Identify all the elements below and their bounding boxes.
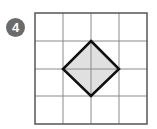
grid-figure bbox=[0, 0, 157, 129]
inner-grid-over-shape bbox=[63, 41, 119, 96]
